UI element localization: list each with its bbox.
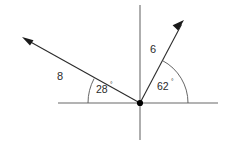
left-ray-length-label: 8 <box>57 70 63 82</box>
right-angle-value: 62 <box>157 80 169 92</box>
left-ray-line <box>27 40 140 103</box>
geometry-diagram-canvas: 8 6 28 ° 62 ° <box>0 0 234 143</box>
right-ray-arrowhead-icon <box>173 20 184 31</box>
left-ray-arrowhead-icon <box>22 37 34 46</box>
left-angle-value: 28 <box>96 83 108 95</box>
right-angle-degree-symbol: ° <box>171 78 174 85</box>
vertex-point <box>137 100 143 106</box>
left-angle-degree-symbol: ° <box>110 81 113 88</box>
left-angle-arc <box>88 79 94 103</box>
right-ray-length-label: 6 <box>150 43 156 55</box>
geometry-diagram-svg: 8 6 28 ° 62 ° <box>0 0 234 143</box>
